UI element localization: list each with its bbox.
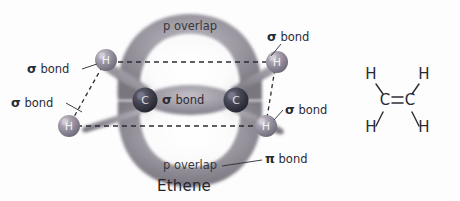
sigma-symbol-top-left: σ — [27, 61, 37, 76]
hydrogen-top-right-label: H — [273, 56, 281, 69]
label-sigma-bond-top-left: σ bond — [27, 63, 69, 76]
label-sigma-bond-mid-left-text: bond — [24, 96, 53, 110]
label-sigma-bond-bottom-right-text: bond — [298, 103, 327, 117]
formula-bond-c-h-top-right — [412, 84, 419, 94]
hydrogen-atom-bottom-left: H — [58, 115, 80, 137]
hydrogen-atom-top-right: H — [266, 51, 288, 73]
hydrogen-bottom-right-label: H — [262, 120, 270, 133]
label-sigma-bond-top-left-text: bond — [40, 62, 69, 76]
hydrogen-atom-top-left: H — [95, 49, 117, 71]
label-sigma-bond-mid-left: σ bond — [11, 97, 53, 110]
pi-symbol: π — [265, 151, 275, 166]
label-sigma-bond-top-right-text: bond — [280, 30, 309, 44]
carbon-left-label: C — [141, 94, 149, 107]
label-pi-bond-text: bond — [279, 152, 308, 166]
sigma-symbol-center: σ — [162, 92, 172, 107]
formula-carbon-left: C — [380, 91, 390, 109]
formula-double-bond — [392, 97, 403, 103]
label-pi-bond: π bond — [265, 153, 307, 166]
ethene-orbital-diagram: C C H H H H — [0, 0, 460, 201]
formula-hydrogen-top-left: H — [365, 65, 376, 83]
formula-hydrogen-bottom-left: H — [365, 118, 376, 136]
formula-hydrogen-top-right: H — [418, 65, 429, 83]
label-sigma-bond-center: σ bond — [162, 94, 204, 107]
leader-sigma-bottom-right — [274, 110, 283, 120]
formula-hydrogen-bottom-right: H — [418, 118, 429, 136]
molecule-title: Ethene — [157, 179, 211, 194]
leader-sigma-top-left — [82, 64, 97, 69]
carbon-atom-right: C — [224, 88, 249, 113]
label-p-overlap-bottom: p overlap — [163, 160, 217, 172]
sigma-symbol-bottom-right: σ — [285, 102, 295, 117]
label-sigma-bond-center-text: bond — [175, 93, 204, 107]
formula-bond-c-h-bottom-left — [376, 112, 383, 126]
carbon-atom-left: C — [133, 88, 158, 113]
hydrogen-bottom-left-label: H — [65, 120, 73, 133]
sigma-symbol-mid-left: σ — [11, 95, 21, 110]
sigma-symbol-top-right: σ — [267, 29, 277, 44]
label-sigma-bond-top-right: σ bond — [267, 31, 309, 44]
formula-carbon-right: C — [405, 91, 415, 109]
diagram-canvas: C C H H H H — [0, 0, 460, 201]
hydrogen-atom-bottom-right: H — [255, 115, 277, 137]
hydrogen-top-left-label: H — [102, 54, 110, 67]
label-p-overlap-top: p overlap — [163, 21, 217, 33]
label-sigma-bond-bottom-right: σ bond — [285, 104, 327, 117]
guide-line-left-diagonal — [70, 60, 106, 124]
structural-formula-group: H H H H C C — [365, 65, 429, 136]
carbon-right-label: C — [232, 94, 240, 107]
